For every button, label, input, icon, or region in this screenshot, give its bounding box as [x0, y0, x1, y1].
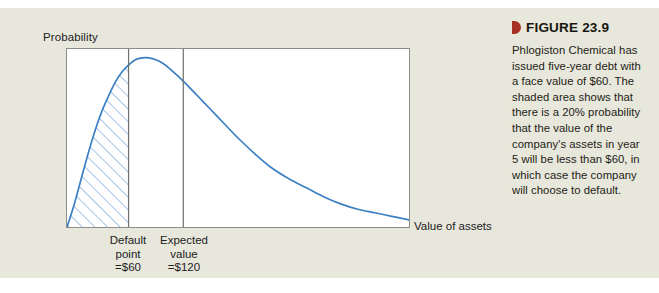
figure-caption: Phlogiston Chemical has issued five-year…: [512, 43, 646, 199]
annotation-expected-line-3: =$120: [146, 261, 222, 275]
annotation-expected-line-1: Expected: [146, 234, 222, 248]
chart-area: Probability Value of assets: [0, 8, 480, 278]
caption-block: FIGURE 23.9 Phlogiston Chemical has issu…: [512, 20, 646, 199]
figure-panel: Probability Value of assets: [0, 8, 659, 278]
annotation-expected-value: Expected value =$120: [146, 234, 222, 275]
distribution-plot: [67, 49, 409, 227]
figure-title: FIGURE 23.9: [526, 20, 609, 35]
plot-frame: [66, 48, 410, 228]
vertical-marker-lines: [129, 49, 184, 227]
y-axis-label: Probability: [43, 31, 98, 43]
annotation-expected-line-2: value: [146, 248, 222, 262]
x-axis-label: Value of assets: [414, 220, 492, 232]
figure-title-row: FIGURE 23.9: [512, 20, 646, 35]
figure-marker-icon: [512, 21, 521, 34]
